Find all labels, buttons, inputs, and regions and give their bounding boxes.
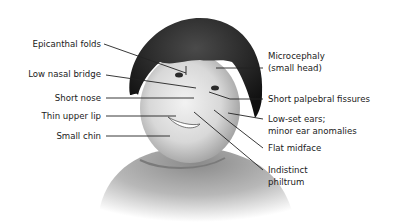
label-microcephaly: Microcephaly (small head) bbox=[268, 50, 325, 74]
label-indistinct-philtrum: Indistinct philtrum bbox=[268, 164, 308, 188]
label-small-chin: Small chin bbox=[56, 130, 101, 142]
label-thin-upper-lip: Thin upper lip bbox=[42, 110, 101, 122]
label-low-set-ears: Low-set ears; minor ear anomalies bbox=[268, 113, 357, 137]
label-low-nasal-bridge: Low nasal bridge bbox=[28, 68, 101, 80]
face-shape bbox=[140, 53, 240, 163]
label-short-palpebral-fissures: Short palpebral fissures bbox=[268, 93, 370, 105]
label-short-nose: Short nose bbox=[55, 92, 101, 104]
diagram: Epicanthal folds Low nasal bridge Short … bbox=[0, 0, 397, 222]
label-flat-midface: Flat midface bbox=[268, 142, 321, 154]
label-epicanthal-folds: Epicanthal folds bbox=[32, 38, 101, 50]
